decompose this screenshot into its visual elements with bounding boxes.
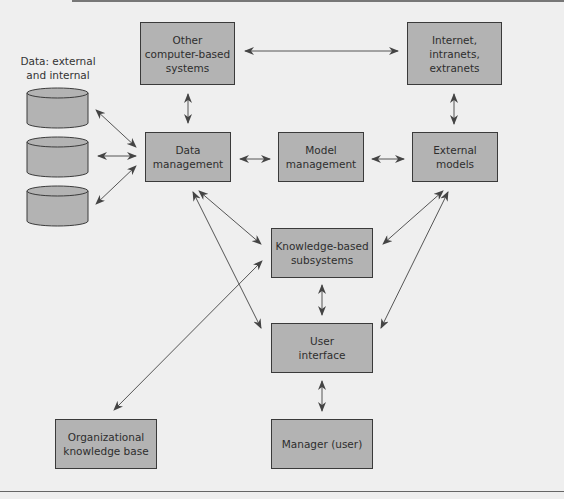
edge-data-knowledge xyxy=(199,191,261,244)
edge-data-ui xyxy=(193,192,261,328)
database-icon xyxy=(27,88,88,128)
data-sources-caption: Data: external and internal xyxy=(14,54,102,82)
edge-external-ui xyxy=(381,192,448,328)
edge-db1-data xyxy=(96,110,136,147)
database-icon xyxy=(27,186,88,226)
node-knowledge-based-subsystems: Knowledge-based subsystems xyxy=(271,228,373,278)
node-manager-user: Manager (user) xyxy=(271,419,373,469)
edge-external-knowledge xyxy=(383,191,443,244)
node-organizational-knowledge-base: Organizational knowledge base xyxy=(55,419,157,469)
database-icon xyxy=(27,137,88,177)
node-internet-intranets-extranets: Internet, intranets, extranets xyxy=(407,22,502,85)
node-other-computer-systems: Other computer-based systems xyxy=(140,22,235,85)
node-user-interface: User interface xyxy=(271,323,373,373)
node-model-management: Model management xyxy=(278,132,364,182)
edge-knowledge-orgkb xyxy=(114,261,262,410)
node-external-models: External models xyxy=(412,132,498,182)
edge-db3-data xyxy=(96,166,136,204)
node-data-management: Data management xyxy=(145,132,231,182)
